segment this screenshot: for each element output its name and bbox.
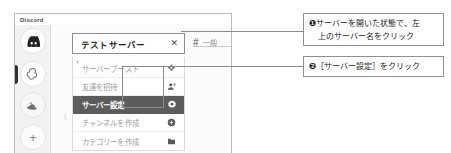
server-avatar-icon[interactable] [20,92,46,118]
menu-item-label: サーバーブースト [82,63,166,74]
server-avatar-icon[interactable] [20,61,46,87]
plus-icon: + [29,131,37,144]
server-name-button[interactable]: テストサーバー ✕ [72,33,185,54]
channel-header-divider [193,46,232,47]
boost-icon [166,63,177,74]
server-name-label: テストサーバー [81,38,168,50]
screenshot-root: Discord + [0,0,451,153]
menu-item-create-channel[interactable]: チャンネルを作成 [73,114,184,132]
menu-item-server-boost[interactable]: サーバーブースト [73,60,184,78]
decorative-glyph: ( [64,111,67,120]
bracket-top [122,66,164,67]
leader-line-1 [181,31,303,32]
discord-wordmark: Discord [20,16,44,25]
menu-item-create-category[interactable]: カテゴリーを作成 [73,132,184,150]
menu-item-server-settings[interactable]: サーバー設定 [73,96,184,114]
leader-line-2-inner [122,107,164,108]
leader-line-2-vertical [163,66,164,108]
discord-logo-icon[interactable] [20,28,46,54]
annotation-text-line-1: ［サーバー設定］をクリック [316,62,420,71]
menu-item-invite-friends[interactable]: 友達を招待 [73,78,184,96]
discord-app-window: Discord + [14,13,232,153]
bracket-left [122,66,123,108]
active-server-indicator [14,65,18,84]
close-icon[interactable]: ✕ [168,39,178,48]
invite-icon [166,81,177,92]
annotation-text-line-2: 上のサーバー名をクリック [309,30,438,43]
channel-panel: # 一般 ( テストサーバー ✕ ▾ サーバーブースト [51,25,231,153]
folder-icon [166,136,177,147]
add-server-button[interactable]: + [20,124,46,150]
menu-item-label: サーバー設定 [82,99,166,110]
annotation-callout-2: ❷［サーバー設定］をクリック [303,56,444,77]
leader-line-2-horizontal [163,66,303,67]
plus-circle-icon [166,117,177,128]
menu-item-label: チャンネルを作成 [82,117,166,128]
menu-item-label: 友達を招待 [82,81,166,92]
menu-item-label: カテゴリーを作成 [82,136,166,147]
server-rail: + [15,25,51,153]
annotation-callout-1: ❶サーバーを開いた状態で、左 上のサーバー名をクリック [303,13,444,46]
annotation-text-line-1: サーバーを開いた状態で、左 [316,19,420,28]
gear-icon [166,99,177,110]
server-dropdown-menu[interactable]: ▾ サーバーブースト 友達を招待 [72,57,185,151]
